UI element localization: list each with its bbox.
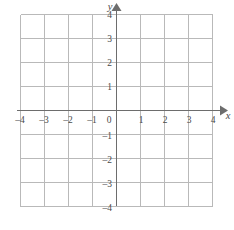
x-tick-label-neg4: –4 bbox=[14, 115, 25, 125]
y-tick-labels-group: 4 3 2 1 –1 –2 –3 –4 bbox=[102, 10, 113, 213]
coordinate-grid-svg: x y –4 –3 –2 –1 1 2 3 4 0 4 3 2 1 –1 –2 … bbox=[0, 0, 234, 230]
origin-label-group: 0 bbox=[107, 115, 112, 125]
y-tick-label-2: 2 bbox=[107, 58, 112, 68]
x-tick-labels-group: –4 –3 –2 –1 1 2 3 4 bbox=[14, 115, 215, 125]
x-tick-label-3: 3 bbox=[187, 115, 192, 125]
y-tick-label-neg4: –4 bbox=[102, 203, 113, 213]
axis-arrowheads-group bbox=[112, 3, 229, 116]
y-tick-label-neg3: –3 bbox=[102, 179, 113, 189]
x-tick-label-neg1: –1 bbox=[86, 115, 97, 125]
axes-group bbox=[17, 11, 220, 206]
x-tick-label-1: 1 bbox=[139, 115, 144, 125]
x-tick-label-neg3: –3 bbox=[38, 115, 49, 125]
y-tick-label-4: 4 bbox=[107, 10, 112, 20]
x-tick-label-4: 4 bbox=[211, 115, 216, 125]
y-axis-arrow-icon bbox=[112, 3, 122, 11]
x-tick-label-neg2: –2 bbox=[62, 115, 73, 125]
origin-label: 0 bbox=[107, 115, 112, 125]
y-tick-label-neg2: –2 bbox=[102, 155, 113, 165]
x-axis-label: x bbox=[225, 110, 231, 121]
y-tick-label-neg1: –1 bbox=[102, 131, 113, 141]
y-tick-label-3: 3 bbox=[107, 34, 112, 44]
coordinate-plane-figure: x y –4 –3 –2 –1 1 2 3 4 0 4 3 2 1 –1 –2 … bbox=[0, 0, 234, 230]
x-tick-label-2: 2 bbox=[163, 115, 168, 125]
y-tick-label-1: 1 bbox=[107, 82, 112, 92]
